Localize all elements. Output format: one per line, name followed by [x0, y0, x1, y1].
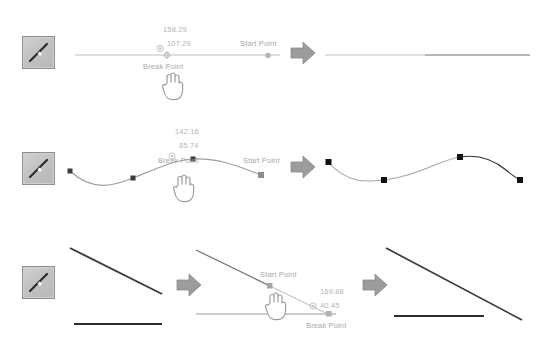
break-line-tool-button-row2[interactable]: [22, 152, 55, 185]
source-diagonal-line: [196, 250, 270, 286]
before-preview-row1: 158.29 107.29 Start Point Break Point: [75, 48, 280, 62]
before-preview-row3: [66, 246, 176, 336]
start-point-node[interactable]: [258, 172, 264, 178]
result-curve-light: [328, 157, 460, 181]
break-line-tool-icon: [23, 37, 54, 68]
before-preview-row2: 142.16 85.74 Break Point Start Point: [65, 134, 280, 194]
after-preview-row2: [322, 134, 537, 194]
square-node-icon[interactable]: [131, 176, 136, 181]
break-line-tool-icon: [23, 267, 54, 298]
start-point-node[interactable]: [265, 53, 270, 58]
break-line-tool-icon: [23, 153, 54, 184]
hand-pointer-cursor-icon-row2: [170, 172, 196, 204]
after-preview-row1: [325, 48, 530, 62]
demonstration-canvas: 158.29 107.29 Start Point Break Point: [0, 0, 550, 348]
measurement-primary-row3: 169.88: [320, 288, 344, 296]
break-point-target-icon: [157, 45, 163, 51]
after-preview-row3: [382, 244, 532, 336]
square-node-icon[interactable]: [68, 169, 73, 174]
source-diagonal-line: [70, 248, 162, 294]
square-node-icon[interactable]: [517, 177, 523, 183]
break-line-tool-button-row1[interactable]: [22, 36, 55, 69]
arrow-right-icon-row2: [290, 154, 316, 180]
start-point-node[interactable]: [267, 283, 273, 289]
square-node-icon[interactable]: [457, 154, 463, 160]
result-curve-dark: [460, 156, 520, 180]
demo-row-spline-curve: 142.16 85.74 Break Point Start Point: [0, 114, 550, 234]
break-point-label-row3: Break Point: [306, 322, 346, 330]
square-node-icon[interactable]: [326, 159, 332, 165]
break-point-label-row2: Break Point: [158, 157, 198, 165]
measurement-primary-row2: 142.16: [175, 128, 199, 136]
square-node-icon[interactable]: [381, 177, 387, 183]
start-point-label-row2: Start Point: [243, 157, 280, 165]
break-point-node[interactable]: [326, 311, 332, 317]
break-line-tool-button-row3[interactable]: [22, 266, 55, 299]
demo-row-straight-line: 158.29 107.29 Start Point Break Point: [0, 0, 550, 120]
hand-pointer-cursor-icon-row3: [262, 290, 288, 322]
result-diagonal-line: [386, 248, 522, 320]
hand-pointer-cursor-icon-row1: [159, 70, 185, 102]
arrow-right-icon-row1: [290, 40, 316, 66]
start-point-label-row3: Start Point: [260, 271, 297, 279]
measurement-primary-row1: 158.29: [163, 26, 187, 34]
measurement-secondary-row1: 107.29: [167, 40, 191, 48]
demo-row-diagonal-extend: Start Point 169.88 40.45 Break Point: [0, 238, 550, 348]
measurement-secondary-row3: 40.45: [320, 302, 340, 310]
middle-preview-row3: Start Point 169.88 40.45 Break Point: [196, 244, 356, 336]
start-point-label-row1: Start Point: [240, 40, 277, 48]
measurement-secondary-row2: 85.74: [179, 142, 199, 150]
